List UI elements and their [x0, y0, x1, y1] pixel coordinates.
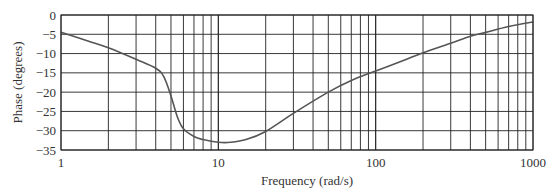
- y-tick-label: −5: [42, 27, 56, 42]
- y-tick-label: −25: [36, 104, 56, 119]
- x-tick-label: 1000: [520, 155, 546, 170]
- phase-curve: [61, 22, 533, 143]
- y-tick-label: −30: [36, 123, 56, 138]
- x-axis-label: Frequency (rad/s): [261, 173, 353, 188]
- x-tick-label: 10: [212, 155, 225, 170]
- grid-lines: [61, 15, 533, 150]
- y-tick-label: −10: [36, 46, 56, 61]
- y-axis-label: Phase (degrees): [10, 42, 25, 124]
- phase-plot: 0−5−10−15−20−25−30−35 1101001000 Frequen…: [0, 0, 559, 196]
- y-tick-label: 0: [50, 8, 57, 23]
- plot-frame: [61, 15, 533, 150]
- y-tick-label: −15: [36, 65, 56, 80]
- x-tick-label: 100: [366, 155, 386, 170]
- x-axis-ticks: 1101001000: [58, 155, 546, 170]
- x-tick-label: 1: [58, 155, 65, 170]
- y-tick-label: −35: [36, 143, 56, 158]
- y-axis-ticks: 0−5−10−15−20−25−30−35: [36, 8, 56, 158]
- y-tick-label: −20: [36, 85, 56, 100]
